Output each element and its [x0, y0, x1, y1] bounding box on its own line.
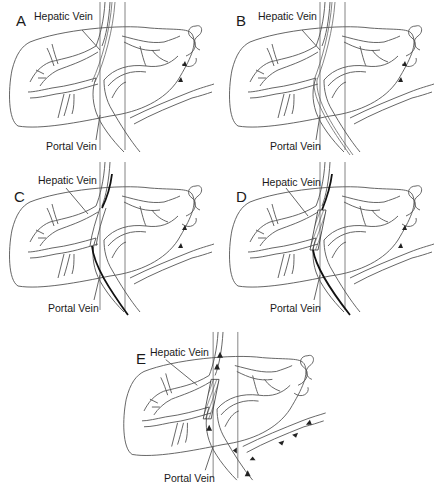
panel-letter: D	[236, 188, 247, 205]
portal-vein-label: Portal Vein	[48, 302, 99, 314]
liver-diagram-a	[0, 0, 220, 160]
hepatic-vein-label: Hepatic Vein	[258, 10, 317, 22]
hepatic-vein-label: Hepatic Vein	[150, 346, 209, 358]
portal-vein-label: Portal Vein	[46, 140, 97, 152]
panel-d: D Hepatic Vein Portal Vein	[220, 160, 437, 320]
portal-vein-label: Portal Vein	[270, 302, 321, 314]
hepatic-vein-label: Hepatic Vein	[38, 174, 97, 186]
panel-a: A Hepatic Vein Portal Vein	[0, 0, 220, 160]
stent	[310, 210, 326, 250]
panel-letter: E	[136, 350, 146, 367]
panel-letter: B	[236, 12, 246, 29]
hepatic-vein-label: Hepatic Vein	[262, 176, 321, 188]
liver-diagram-c	[0, 160, 220, 320]
portal-vein-label: Portal Vein	[270, 140, 321, 152]
panel-letter: A	[16, 12, 26, 29]
portal-vein-label: Portal Vein	[164, 472, 215, 484]
liver-diagram-d	[220, 160, 437, 320]
liver-diagram-b	[220, 0, 437, 160]
panel-c: C Hepatic Vein Portal Vein	[0, 160, 220, 320]
panel-e: E Hepatic Vein Portal Vein	[108, 330, 338, 488]
stent	[203, 379, 219, 419]
flow-arrow-icon	[398, 225, 407, 248]
hepatic-vein-label: Hepatic Vein	[34, 10, 93, 22]
panel-b: B Hepatic Vein Portal Vein	[220, 0, 437, 160]
panel-letter: C	[14, 188, 25, 205]
flow-arrow-icon	[178, 225, 187, 248]
